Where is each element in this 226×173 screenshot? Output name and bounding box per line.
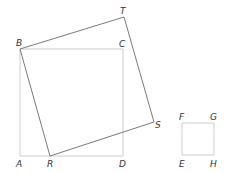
label-g: G <box>210 112 217 122</box>
label-r: R <box>47 159 53 169</box>
label-b: B <box>16 38 22 48</box>
label-c: C <box>119 39 126 49</box>
square-efgh <box>182 123 214 155</box>
label-d: D <box>119 159 126 169</box>
square-btsr <box>20 17 154 156</box>
label-s: S <box>155 120 161 130</box>
label-e: E <box>179 159 185 169</box>
label-a: A <box>15 159 22 169</box>
label-f: F <box>179 112 185 122</box>
label-h: H <box>210 159 217 169</box>
geometry-diagram: A B C D R S T E F G H <box>0 0 226 173</box>
label-t: T <box>120 6 127 16</box>
